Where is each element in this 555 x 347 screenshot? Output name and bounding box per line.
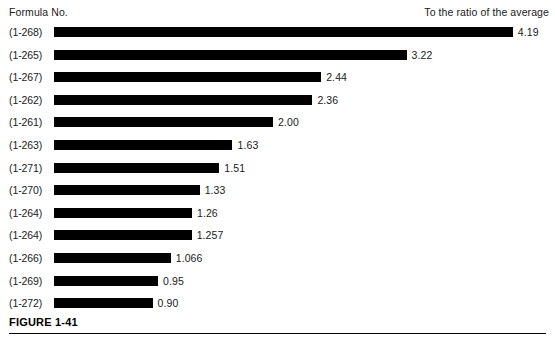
- caption-body-text: [9, 337, 546, 345]
- bar-row: (1-264)1.26: [0, 206, 555, 229]
- bar-category-label: (1-263): [9, 139, 53, 151]
- bar-row: (1-262)2.36: [0, 93, 555, 116]
- bar: [54, 117, 273, 127]
- bar-row: (1-261)2.00: [0, 115, 555, 138]
- bar-row: (1-272)0.90: [0, 296, 555, 319]
- bar-row: (1-266)1.066: [0, 251, 555, 274]
- formula-no-header: Formula No.: [9, 6, 68, 18]
- figure-container: Formula No. To the ratio of the average …: [0, 0, 555, 347]
- bar: [54, 253, 171, 263]
- bar: [54, 95, 312, 105]
- chart-header: Formula No. To the ratio of the average: [0, 6, 555, 22]
- bar-value-label: 4.19: [518, 26, 539, 38]
- bar-category-label: (1-270): [9, 184, 53, 196]
- bar: [54, 50, 407, 60]
- bar-category-label: (1-268): [9, 26, 53, 38]
- bar-value-label: 2.36: [317, 94, 338, 106]
- bar: [54, 276, 158, 286]
- bar: [54, 140, 232, 150]
- bar-category-label: (1-266): [9, 252, 53, 264]
- bar: [54, 163, 219, 173]
- caption-divider: [9, 333, 546, 334]
- figure-number-label: FIGURE 1-41: [9, 316, 78, 328]
- bar-category-label: (1-272): [9, 297, 53, 309]
- bar-category-label: (1-261): [9, 116, 53, 128]
- bar-row: (1-264)1.257: [0, 228, 555, 251]
- bar-value-label: 2.44: [326, 71, 347, 83]
- bar-row: (1-270)1.33: [0, 183, 555, 206]
- bar-row: (1-267)2.44: [0, 70, 555, 93]
- bar-category-label: (1-264): [9, 229, 53, 241]
- bar-value-label: 0.90: [158, 297, 179, 309]
- bar-value-label: 1.33: [205, 184, 226, 196]
- ratio-average-header: To the ratio of the average: [424, 6, 549, 18]
- bar: [54, 298, 153, 308]
- bar: [54, 208, 192, 218]
- bar-value-label: 2.00: [278, 116, 299, 128]
- bar-row: (1-265)3.22: [0, 48, 555, 71]
- bar-category-label: (1-269): [9, 275, 53, 287]
- bar-value-label: 0.95: [163, 275, 184, 287]
- bar: [54, 27, 513, 37]
- bar: [54, 230, 192, 240]
- bar-category-label: (1-262): [9, 94, 53, 106]
- bar-row: (1-263)1.63: [0, 138, 555, 161]
- bar-chart-plot-area: (1-268)4.19(1-265)3.22(1-267)2.44(1-262)…: [0, 25, 555, 310]
- bar-category-label: (1-267): [9, 71, 53, 83]
- bar-category-label: (1-264): [9, 207, 53, 219]
- bar-value-label: 1.26: [197, 207, 218, 219]
- bar: [54, 72, 321, 82]
- bar-value-label: 1.51: [224, 162, 245, 174]
- bar-value-label: 1.257: [197, 229, 224, 241]
- bar-value-label: 1.066: [176, 252, 203, 264]
- bar-category-label: (1-271): [9, 162, 53, 174]
- bar: [54, 185, 200, 195]
- bar-row: (1-269)0.95: [0, 274, 555, 297]
- bar-value-label: 3.22: [412, 49, 433, 61]
- bar-category-label: (1-265): [9, 49, 53, 61]
- bar-row: (1-268)4.19: [0, 25, 555, 48]
- bar-value-label: 1.63: [237, 139, 258, 151]
- bar-row: (1-271)1.51: [0, 161, 555, 184]
